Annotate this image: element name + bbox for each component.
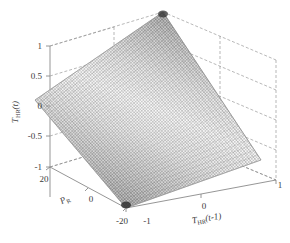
x-tick-label-0: 0 (202, 201, 207, 211)
y-tick-label-20: 20 (40, 174, 50, 184)
svg-text:PR: PR (57, 192, 72, 207)
z-axis-title: THR(t) (10, 101, 21, 123)
surface-mesh (35, 11, 261, 209)
surface-apex-highlight (158, 11, 168, 18)
plot-canvas: 1 0.5 0 -0.5 -1 20 0 -20 -1 0 1 THR(t) (0, 0, 290, 243)
x-axis-title: THR(t-1) (191, 211, 222, 227)
z-tick-label-0: 0 (38, 101, 43, 111)
z-tick-label-neg0_5: -0.5 (28, 131, 43, 141)
z-tick-label-1: 1 (38, 41, 43, 51)
x-tick-label-neg1: -1 (143, 216, 151, 226)
y-tick-label-neg20: -20 (116, 216, 128, 226)
z-tick-label-neg1: -1 (35, 162, 43, 172)
surface-midtone-wash (35, 12, 261, 208)
gridline-z-1 (50, 27, 114, 46)
svg-text:THR(t): THR(t) (10, 101, 21, 123)
surface-nadir-highlight (121, 202, 131, 209)
y-tick-label-0: 0 (89, 194, 94, 204)
z-title-arg: (t) (10, 101, 20, 110)
y-axis-title: PR (57, 192, 72, 207)
surface-plot-figure: 1 0.5 0 -0.5 -1 20 0 -20 -1 0 1 THR(t) (0, 0, 290, 243)
svg-text:THR(t-1): THR(t-1) (191, 211, 222, 227)
x-tick-label-1: 1 (278, 180, 283, 190)
y-tick-0 (85, 188, 88, 191)
x-title-arg: (t-1) (204, 211, 221, 224)
z-tick-label-0_5: 0.5 (31, 71, 43, 81)
